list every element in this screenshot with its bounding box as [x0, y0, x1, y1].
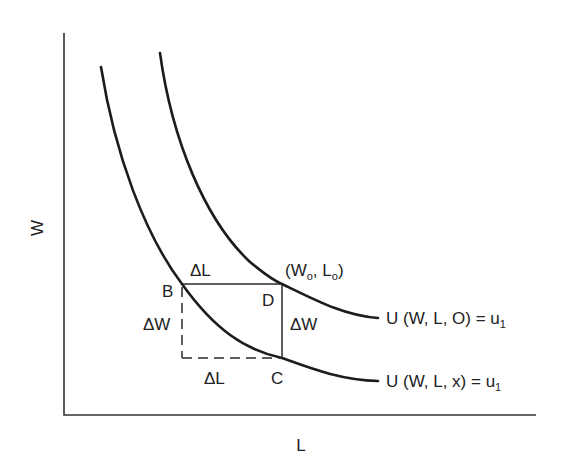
curve-lower-label: U (W, L, x) = u1 — [386, 372, 501, 393]
delta-w-right-label: ΔW — [290, 315, 317, 334]
point-label-d: D — [262, 291, 274, 310]
indifference-curve-diagram: W L B D C (Wo, Lo) ΔL ΔL ΔW ΔW U (W, L, … — [0, 0, 565, 474]
curve-upper-label: U (W, L, O) = u1 — [386, 309, 506, 330]
delta-l-bottom-label: ΔL — [204, 369, 225, 388]
point-label-w0-l0: (Wo, Lo) — [285, 261, 344, 282]
delta-w-left-label: ΔW — [143, 315, 170, 334]
y-axis-label: W — [28, 220, 47, 236]
point-label-b: B — [162, 282, 173, 301]
point-label-c: C — [271, 369, 283, 388]
delta-l-top-label: ΔL — [190, 261, 211, 280]
x-axis-label: L — [296, 436, 305, 455]
axes — [64, 33, 536, 415]
